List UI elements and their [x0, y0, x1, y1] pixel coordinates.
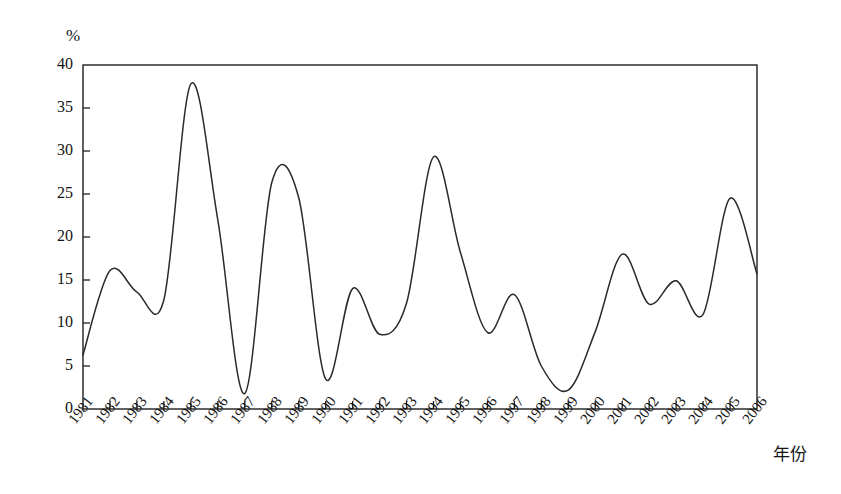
- data-series-line: [83, 83, 757, 394]
- y-tick-label: 25: [43, 184, 73, 202]
- y-axis-ticks: [83, 108, 90, 366]
- y-tick-label: 10: [43, 313, 73, 331]
- y-tick-label: 30: [43, 141, 73, 159]
- chart-container: % 年份 0510152025303540 198119821983198419…: [0, 0, 841, 494]
- y-tick-label: 15: [43, 270, 73, 288]
- y-tick-label: 5: [43, 356, 73, 374]
- y-tick-label: 20: [43, 227, 73, 245]
- y-tick-label: 35: [43, 98, 73, 116]
- y-tick-label: 40: [43, 55, 73, 73]
